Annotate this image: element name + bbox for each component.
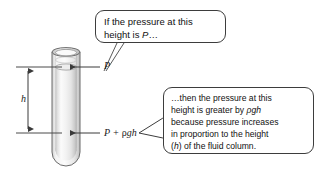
figure-canvas: P P + ρgh h If the pressure at this heig… [0, 0, 322, 176]
fluid-body [56, 64, 77, 161]
callout-bottom-line-4: in proportion to the height [171, 128, 307, 140]
callout-top-line-1: If the pressure at this [104, 15, 218, 28]
label-pressure-top: P [104, 60, 110, 71]
callout-bottom-tail [139, 118, 164, 138]
callout-bottom-line-3: because pressure increases [171, 116, 307, 128]
callout-top-line-2: height is P… [104, 28, 218, 41]
label-pressure-bottom: P + ρgh [104, 127, 137, 138]
callout-bottom-line-2: height is greater by ρgh [171, 104, 307, 116]
callout-pressure-at-top: If the pressure at this height is P… [95, 10, 226, 43]
label-height: h [21, 93, 26, 104]
label-pressure-bottom-prefix: P + [104, 127, 122, 138]
callout-bottom-line-5: (h) of the fluid column. [171, 140, 307, 152]
callout-bottom-line-1: …then the pressure at this [171, 92, 307, 104]
callout-pressure-at-bottom: …then the pressure at this height is gre… [163, 87, 314, 154]
label-pressure-bottom-suffix: gh [127, 127, 137, 138]
